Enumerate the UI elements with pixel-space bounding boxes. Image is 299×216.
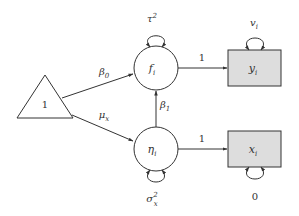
eta-variance-sub: x <box>154 200 158 208</box>
f-subscript: i <box>153 69 155 77</box>
y-variance-sub: i <box>256 23 258 31</box>
edge-eta-to-f-sub: 1 <box>166 105 170 113</box>
svg-text:σ2x: σ2x <box>146 191 158 208</box>
constant-node: 1 <box>17 75 73 118</box>
f-variance-loop: τ2 <box>147 12 164 47</box>
edge-f-to-y: 1 <box>178 52 227 68</box>
path-diagram: 1 fi τ2 ηi σ2x yi vi <box>0 0 299 216</box>
svg-text:vi: vi <box>250 17 258 31</box>
edge-eta-to-x-label: 1 <box>199 133 205 144</box>
svg-text:μx: μx <box>99 109 110 123</box>
x-variance-loop: 0 <box>247 167 264 202</box>
edge-f-to-y-label: 1 <box>199 52 205 63</box>
edge-eta-to-x: 1 <box>178 133 227 149</box>
f-latent-node: fi <box>134 46 178 90</box>
edge-const-to-f: β0 <box>62 66 133 98</box>
x-variance-label: 0 <box>252 191 258 202</box>
x-observed-node: xi <box>228 131 281 167</box>
edge-const-to-f-sub: 0 <box>105 72 110 80</box>
constant-label: 1 <box>42 99 48 110</box>
svg-text:β1: β1 <box>159 99 170 113</box>
edge-const-to-eta: μx <box>72 109 133 141</box>
y-observed-node: yi <box>228 50 281 86</box>
y-subscript: i <box>255 69 257 77</box>
edge-eta-to-f: β1 <box>156 91 170 127</box>
svg-text:β0: β0 <box>98 66 110 80</box>
eta-variance-sup: 2 <box>152 191 158 199</box>
eta-variance-loop: σ2x <box>146 170 164 208</box>
x-subscript: i <box>255 150 257 158</box>
y-variance-loop: vi <box>247 17 264 50</box>
f-variance-sup: 2 <box>152 12 158 20</box>
eta-subscript: i <box>154 150 156 158</box>
eta-latent-node: ηi <box>134 127 178 171</box>
edge-const-to-eta-sub: x <box>105 115 109 123</box>
svg-text:τ2: τ2 <box>147 12 158 24</box>
